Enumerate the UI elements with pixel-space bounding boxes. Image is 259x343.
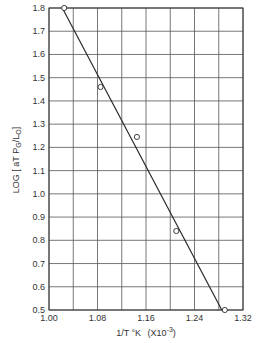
data-point: [222, 307, 227, 312]
x-tick-label: 1.24: [186, 313, 204, 323]
x-tick-label: 1.00: [40, 313, 58, 323]
data-point: [174, 228, 179, 233]
y-tick-label: 0.7: [32, 259, 45, 269]
y-tick-label: 1.3: [32, 119, 45, 129]
y-tick-label: 0.8: [32, 235, 45, 245]
y-tick-label: 1.0: [32, 189, 45, 199]
y-tick-label: 0.9: [32, 212, 45, 222]
x-tick-label: 1.32: [234, 313, 252, 323]
data-point: [134, 134, 139, 139]
fit-line: [62, 8, 221, 310]
data-series: [62, 5, 228, 312]
y-tick-label: 1.2: [32, 142, 45, 152]
y-tick-label: 1.7: [32, 26, 45, 36]
x-axis-ticks: 1.001.081.161.241.32: [40, 313, 252, 323]
y-tick-label: 1.6: [32, 49, 45, 59]
y-tick-label: 0.6: [32, 282, 45, 292]
data-point: [98, 84, 103, 89]
data-point: [62, 5, 67, 10]
chart: 1.81.71.61.51.41.31.21.11.00.90.80.70.60…: [0, 0, 259, 343]
x-tick-label: 1.08: [89, 313, 107, 323]
y-tick-label: 1.8: [32, 3, 45, 13]
y-axis-ticks: 1.81.71.61.51.41.31.21.11.00.90.80.70.60…: [32, 3, 45, 315]
x-axis-label: 1/T °K (X10-3): [116, 326, 176, 338]
svg-text:LOG [ aT PG/LO]: LOG [ aT PG/LO]: [11, 127, 22, 193]
y-tick-label: 1.4: [32, 96, 45, 106]
grid-lines: [49, 8, 243, 310]
y-axis-label: LOG [ aT PG/LO]: [11, 127, 22, 193]
y-tick-label: 1.1: [32, 166, 45, 176]
x-tick-label: 1.16: [137, 313, 155, 323]
y-tick-label: 1.5: [32, 73, 45, 83]
